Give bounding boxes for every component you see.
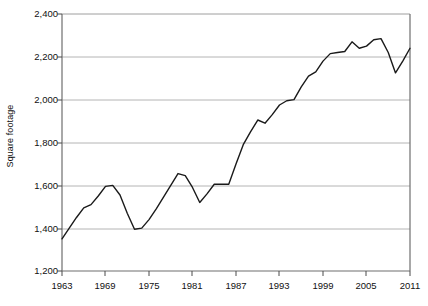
x-tick-label: 1993: [259, 281, 299, 291]
x-tick-label: 1999: [303, 281, 343, 291]
x-tick-label: 1975: [129, 281, 169, 291]
x-tick-label: 2005: [346, 281, 386, 291]
x-tick-label: 1981: [172, 281, 212, 291]
x-tick-label: 2011: [390, 281, 428, 291]
chart-container: Square footage 2,400 2,200 2,000 1,800 1…: [0, 0, 428, 306]
x-tick-label: 1969: [85, 281, 125, 291]
x-tick-label: 1963: [42, 281, 82, 291]
x-tick-label: 1987: [216, 281, 256, 291]
x-axis-tick-labels: 1963 1969 1975 1981 1987 1993 1999 2005 …: [0, 0, 428, 306]
